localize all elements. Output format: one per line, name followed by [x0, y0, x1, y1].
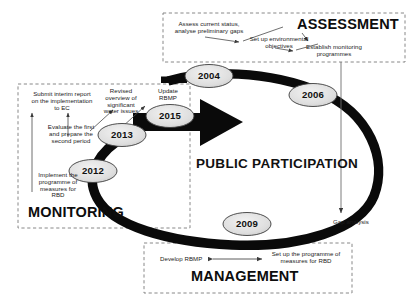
assessment-note-assess-status: Assess current status, analyse prelimina… — [168, 21, 250, 35]
assessment-note-monitoring-programmes: Establish monitoring programmes — [293, 44, 375, 58]
monitoring-note-interim-report: Submit interim report on the implementat… — [20, 91, 104, 111]
management-title: MANAGEMENT — [191, 268, 299, 284]
year-label-2004: 2004 — [185, 70, 233, 81]
monitoring-note-revised-overview: Revised overview of significant water is… — [97, 88, 145, 115]
management-note-develop-rbmp: Develop RBMP — [160, 256, 212, 263]
monitoring-note-implement-programme: Implement the programme of measures for … — [30, 172, 86, 199]
public-participation-label: PUBLIC PARTICIPATION — [196, 156, 358, 171]
monitoring-title: MONITORING — [28, 204, 124, 220]
management-note-programme-measures: Set up the programme of measures for RBD — [264, 251, 348, 265]
monitoring-note-update-rbmp: Update RBMP — [147, 88, 189, 102]
year-label-2006: 2006 — [289, 89, 337, 100]
year-label-2009: 2009 — [223, 218, 271, 229]
gap-analysis-label: Gap analysis — [333, 219, 369, 226]
assessment-title: ASSESSMENT — [297, 16, 399, 32]
diagram-canvas: 2004 2006 2009 2012 2013 2015 PUBLIC PAR… — [0, 0, 419, 302]
monitoring-note-evaluate-first-period: Evaluate the first and prepare the secon… — [38, 124, 104, 144]
year-label-2013: 2013 — [98, 129, 146, 140]
year-label-2015: 2015 — [146, 110, 194, 121]
